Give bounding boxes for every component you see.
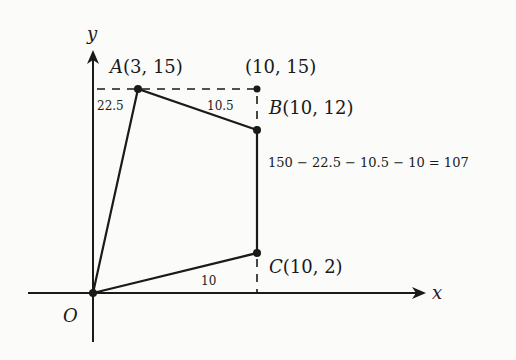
area-equation: 150 − 22.5 − 10.5 − 10 = 107 bbox=[268, 155, 469, 170]
origin-label: O bbox=[63, 305, 78, 326]
point-B-label: B(10, 12) bbox=[268, 97, 354, 118]
x-axis-label: x bbox=[432, 282, 442, 303]
point-A-label: A(3, 15) bbox=[108, 56, 183, 77]
area-label-top: 10.5 bbox=[207, 99, 234, 113]
point-corner bbox=[254, 86, 261, 93]
point-A bbox=[134, 85, 142, 93]
quadrilateral-OABC bbox=[93, 89, 257, 293]
point-corner-label: (10, 15) bbox=[245, 56, 316, 77]
point-O bbox=[89, 289, 97, 297]
coordinate-diagram: y x O A(3, 15) (10, 15) B(10, 12) C(10, … bbox=[0, 0, 516, 360]
point-B bbox=[253, 126, 261, 134]
point-C-label: C(10, 2) bbox=[269, 256, 343, 277]
point-C bbox=[253, 249, 261, 257]
area-label-bottom: 10 bbox=[201, 274, 216, 288]
area-label-left: 22.5 bbox=[97, 99, 124, 113]
y-axis-label: y bbox=[86, 23, 98, 44]
